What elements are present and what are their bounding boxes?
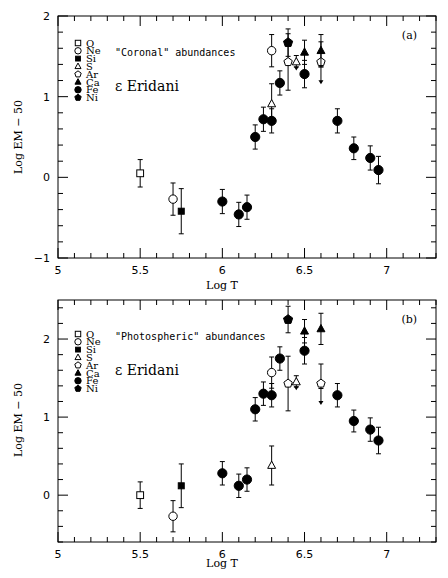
legend-marker-s: [75, 63, 81, 69]
marker-fe: [267, 391, 276, 400]
marker-fe: [251, 405, 260, 414]
panel-label: (b): [401, 313, 417, 326]
data-point-fe: [349, 137, 358, 160]
data-point-ne: [169, 183, 177, 215]
marker-ar: [284, 58, 292, 66]
data-point-o: [137, 160, 144, 187]
marker-ca: [301, 48, 309, 55]
data-point-fe: [218, 189, 227, 213]
x-tick-label: 7: [383, 264, 390, 277]
data-point-fe: [267, 384, 276, 407]
marker-ca: [317, 324, 325, 331]
marker-fe: [259, 389, 268, 398]
y-tick-label: 2: [43, 333, 50, 346]
marker-fe: [267, 116, 276, 125]
data-point-ca: [317, 313, 325, 344]
marker-fe: [251, 132, 260, 141]
star-name: ε Eridani: [115, 362, 179, 378]
legend-marker-ca: [75, 79, 81, 85]
star-name: ε Eridani: [115, 78, 179, 94]
legend-marker-s: [75, 354, 81, 360]
marker-fe: [300, 69, 309, 78]
marker-ca: [317, 46, 325, 53]
legend: ONeSiSArCaFeNi: [75, 38, 101, 104]
legend-marker-si: [76, 347, 81, 352]
y-tick-label: 2: [43, 10, 50, 23]
data-point-fe: [333, 109, 342, 133]
marker-fe: [374, 436, 383, 445]
data-point-o: [137, 482, 144, 509]
legend-marker-ne: [75, 339, 81, 345]
panel-b: 55.566.57012 Log T Log EM − 50 (b) "Phot…: [12, 300, 436, 570]
legend-marker-o: [75, 40, 80, 45]
marker-fe: [234, 481, 243, 490]
data-point-fe: [242, 195, 251, 219]
legend-marker-o: [75, 331, 80, 336]
legend-marker-ar: [75, 362, 81, 368]
legend-marker-ne: [75, 48, 81, 54]
x-tick-label: 7: [383, 548, 390, 561]
marker-ne: [169, 512, 177, 520]
legend-marker-fe: [75, 378, 81, 384]
marker-si: [178, 483, 184, 489]
abundance-annotation: "Photospheric" abundances: [115, 331, 266, 342]
marker-fe: [218, 197, 227, 206]
y-tick-label: 0: [43, 489, 50, 502]
marker-fe: [242, 203, 251, 212]
legend-marker-ar: [75, 71, 81, 77]
x-tick-label: 6.5: [296, 548, 314, 561]
marker-fe: [275, 354, 284, 363]
y-tick-label: 1: [43, 91, 50, 104]
marker-ne: [267, 368, 275, 376]
data-point-fe: [259, 382, 268, 405]
panel-label: (a): [402, 29, 417, 42]
marker-ni: [283, 38, 292, 47]
data-point-s: [268, 446, 276, 485]
marker-fe: [333, 391, 342, 400]
y-tick-label: 1: [43, 411, 50, 424]
data-point-fe: [218, 462, 227, 485]
x-tick-label: 5.5: [131, 264, 149, 277]
marker-fe: [366, 425, 375, 434]
abundance-annotation: "Coronal" abundances: [115, 47, 235, 58]
data-point-fe: [333, 384, 342, 407]
data-point-fe: [234, 474, 243, 497]
data-point-ne: [267, 35, 275, 67]
marker-fe: [259, 115, 268, 124]
marker-o: [137, 170, 144, 177]
data-points: [137, 29, 383, 234]
data-point-fe: [374, 427, 383, 454]
marker-s: [268, 100, 276, 107]
data-point-fe: [366, 146, 375, 170]
marker-fe: [349, 416, 358, 425]
legend-marker-si: [76, 56, 81, 61]
legend: ONeSiSArCaFeNi: [75, 329, 101, 395]
marker-ni: [283, 315, 292, 324]
marker-ne: [267, 46, 275, 54]
data-point-s: [292, 56, 300, 71]
marker-s: [292, 58, 300, 65]
legend-label: Ni: [86, 383, 98, 394]
data-point-ni: [283, 306, 292, 333]
data-point-fe: [242, 468, 251, 491]
legend-label: Ni: [86, 92, 98, 103]
marker-ar: [284, 379, 292, 387]
marker-s: [268, 461, 276, 468]
marker-s: [292, 378, 300, 385]
marker-fe: [374, 165, 383, 174]
x-tick-label: 5.5: [131, 548, 149, 561]
data-point-fe: [251, 125, 260, 149]
x-tick-label: 5: [55, 264, 62, 277]
data-point-si: [178, 464, 184, 508]
data-point-fe: [349, 410, 358, 432]
y-axis-label: Log EM − 50: [12, 100, 25, 174]
data-point-fe: [374, 156, 383, 183]
data-point-si: [178, 189, 184, 234]
legend-marker-ni: [75, 385, 81, 391]
data-point-s: [292, 376, 300, 390]
figure: 55.566.57−1012 Log T Log EM − 50 (a) "Co…: [0, 0, 448, 578]
x-tick-label: 6.5: [296, 264, 314, 277]
data-point-fe: [366, 418, 375, 441]
x-tick-label: 5: [55, 548, 62, 561]
marker-o: [137, 492, 144, 499]
